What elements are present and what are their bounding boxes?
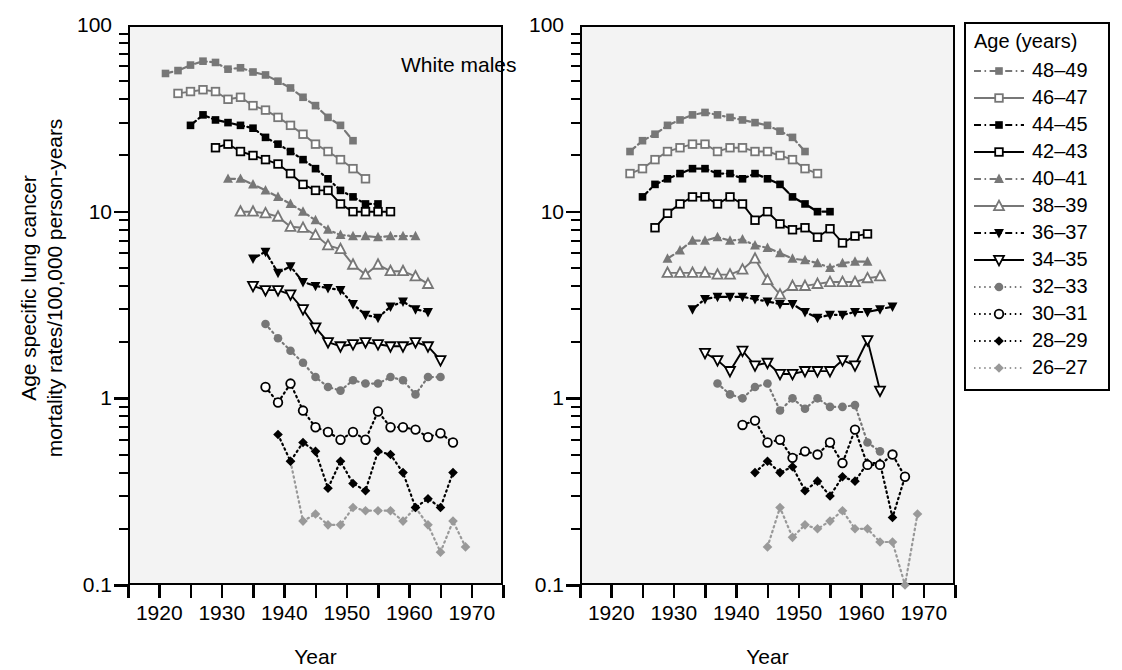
data-series: [763, 503, 923, 590]
data-series: [700, 336, 885, 396]
data-series: [248, 282, 445, 366]
data-series: [738, 416, 909, 481]
data-series: [261, 379, 457, 447]
panel-series-male: [162, 57, 471, 557]
data-series: [187, 111, 382, 208]
series-layer: [0, 0, 1122, 670]
data-series: [750, 456, 910, 522]
chart-figure: Age specific lung cancer mortality rates…: [0, 0, 1122, 670]
data-series: [713, 379, 884, 455]
data-series: [663, 253, 885, 298]
panel-series-female: [626, 109, 922, 590]
data-series: [626, 140, 821, 177]
data-series: [162, 57, 357, 144]
data-series: [174, 86, 369, 183]
data-series: [688, 293, 898, 323]
data-series: [651, 193, 871, 247]
data-series: [236, 206, 433, 288]
data-series: [663, 232, 873, 272]
